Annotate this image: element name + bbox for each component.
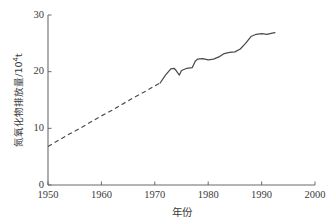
chart-container: 195019601970198019902000 0102030 年份 氮氧化物… <box>0 0 331 219</box>
x-tick-label: 1970 <box>144 190 165 201</box>
data-line-estimated <box>48 83 160 146</box>
y-tick-label: 20 <box>34 66 45 77</box>
y-axis-title-main: 氮氧化物排放量/10 <box>13 61 24 146</box>
x-tick-label: 2000 <box>305 190 326 201</box>
data-line-measured <box>160 33 275 83</box>
x-tick-label: 1990 <box>251 190 272 201</box>
x-tick-label: 1960 <box>91 190 112 201</box>
y-axis-title-exponent: 4 <box>12 57 20 61</box>
chart-plot-area <box>0 0 331 219</box>
x-tick-label: 1950 <box>38 190 59 201</box>
y-tick-label: 10 <box>34 123 45 134</box>
y-axis-title-unit: t <box>13 53 24 57</box>
x-axis-title: 年份 <box>172 204 192 219</box>
y-axis-title: 氮氧化物排放量/104t <box>11 53 25 147</box>
x-tick-label: 1980 <box>198 190 219 201</box>
tick-marks <box>48 15 315 185</box>
y-tick-label: 30 <box>34 10 45 21</box>
axis-lines <box>48 15 315 185</box>
y-tick-label: 0 <box>39 180 44 191</box>
